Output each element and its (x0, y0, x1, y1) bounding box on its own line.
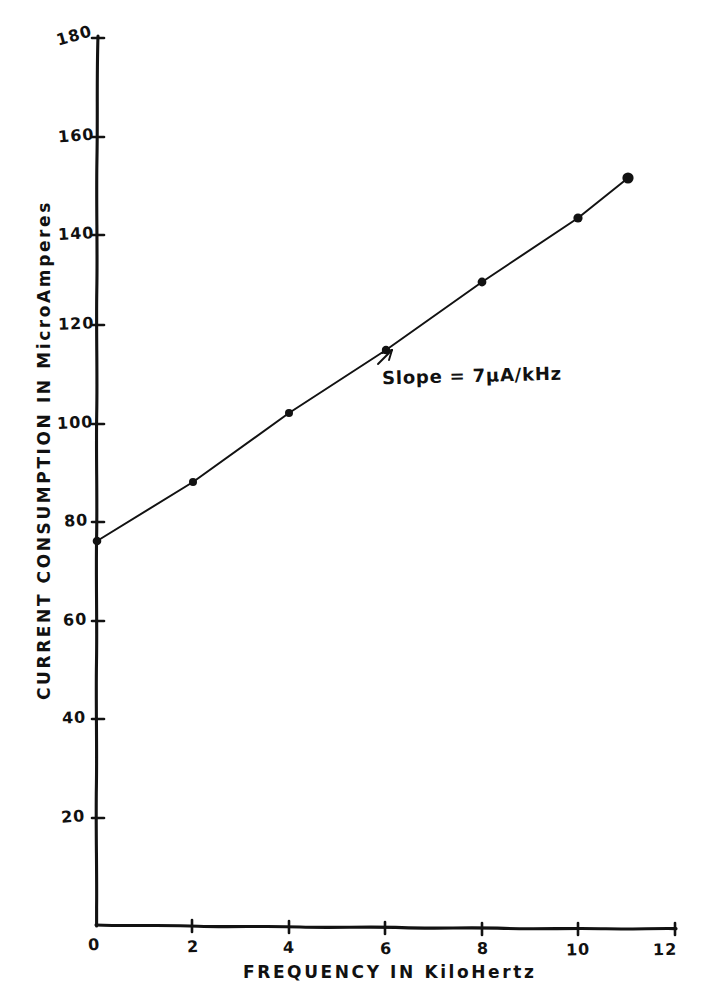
y-tick-label-140: 140 (58, 223, 95, 244)
data-series-line (97, 178, 628, 541)
x-tick-label-10: 10 (566, 940, 591, 960)
x-tick-label-2: 2 (187, 937, 200, 956)
x-tick-label-4: 4 (283, 938, 295, 957)
y-tick-label-120: 120 (58, 313, 95, 333)
slope-annotation-arrow (378, 350, 392, 364)
y-tick-label-0: 0 (87, 935, 100, 955)
x-axis-title: FREQUENCY IN KiloHertz (243, 962, 536, 982)
y-tick-label-60: 60 (63, 609, 88, 629)
y-axis-title: CURRENT CONSUMPTION IN MicroAmperes (34, 200, 54, 700)
data-point-11khz (622, 172, 633, 183)
x-tick-label-6: 6 (380, 939, 393, 958)
y-tick-label-40: 40 (62, 708, 87, 728)
data-point-10khz (573, 213, 582, 222)
data-point-8khz (478, 278, 487, 287)
hand-drawn-chart: 180 160 140 120 100 80 60 40 20 0 2 4 6 … (0, 0, 707, 1004)
y-tick-label-20: 20 (60, 806, 86, 827)
data-point-2khz (189, 478, 197, 486)
y-tick-label-80: 80 (63, 510, 89, 531)
y-axis-line (96, 36, 98, 926)
x-tick-label-8: 8 (477, 939, 489, 958)
chart-plot-area (0, 0, 707, 1004)
x-tick-label-12: 12 (653, 940, 678, 959)
y-tick-label-160: 160 (57, 124, 95, 146)
data-point-0khz (93, 537, 102, 546)
y-tick-label-100: 100 (57, 412, 94, 433)
data-point-4khz (285, 409, 293, 417)
data-point-markers (93, 172, 634, 545)
